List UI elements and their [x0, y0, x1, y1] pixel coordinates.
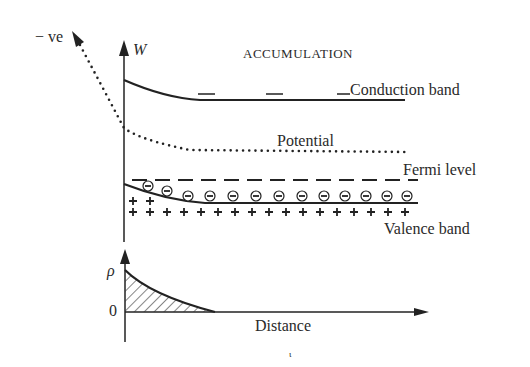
rho-axis-label: ρ [106, 262, 115, 280]
energy-axis [119, 40, 129, 242]
accumulation-band-diagram: W ACCUMULATION − ve Potential Conduction… [0, 0, 530, 367]
charge-density-area [125, 270, 215, 312]
diagram-title: ACCUMULATION [243, 46, 353, 61]
conduction-band-label: Conduction band [350, 81, 460, 98]
potential-sign-label: − ve [35, 28, 63, 45]
valence-band-label: Valence band [384, 220, 470, 237]
fermi-level-label: Fermi level [403, 161, 477, 178]
stray-mark: ι [289, 349, 292, 359]
energy-axis-label: W [133, 41, 148, 58]
arrow-up-icon [119, 40, 129, 56]
arrow-right-icon [414, 308, 429, 316]
arrow-icon [72, 31, 84, 47]
distance-axis-label: Distance [255, 317, 311, 334]
zero-tick-label: 0 [109, 302, 117, 319]
arrow-up-icon [120, 249, 130, 264]
potential-label: Potential [277, 132, 334, 149]
acceptor-marks [143, 181, 412, 201]
